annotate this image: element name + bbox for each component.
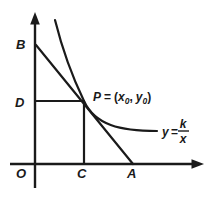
label-curve-equation: y = k x [161,117,189,146]
label-curve-y: y [161,125,170,139]
label-d: D [15,95,25,110]
label-c: C [77,166,87,181]
label-point-p: P=(x0,y0) [93,90,151,106]
hyperbola-tangent-diagram: B D O C A P=(x0,y0) y = k x [0,0,215,197]
label-b: B [16,37,25,52]
label-o: O [16,166,26,181]
hyperbola-curve [55,20,157,131]
label-p-equals: = [104,90,111,104]
label-curve-denominator: x [179,132,188,146]
label-a: A [126,166,136,181]
x-axis-arrow-icon [192,159,205,169]
label-p-name: P [93,90,102,104]
label-p-comma: , [129,90,132,104]
label-curve-numerator: k [180,117,188,131]
label-p-close-paren: ) [147,90,151,104]
label-curve-equals: = [171,125,178,139]
y-axis-arrow-icon [30,12,40,25]
svg-text:P=(x0,y0): P=(x0,y0) [93,90,151,106]
